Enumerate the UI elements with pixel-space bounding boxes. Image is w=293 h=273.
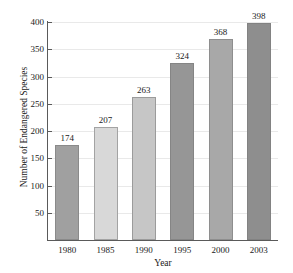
bar[interactable] — [247, 23, 271, 240]
bar-value-label: 324 — [162, 51, 202, 61]
x-axis-title: Year — [48, 258, 278, 268]
y-tick-label: 300 — [2, 72, 44, 82]
plot-area: 174207263324368398 — [48, 22, 278, 240]
y-tick-label: 100 — [2, 181, 44, 191]
y-tick-label: 250 — [2, 99, 44, 109]
bar[interactable] — [55, 145, 79, 240]
gridline — [48, 77, 278, 78]
x-tick-label: 1985 — [86, 245, 126, 255]
x-tick-label: 1990 — [124, 245, 164, 255]
x-axis-line — [47, 240, 278, 241]
bar[interactable] — [132, 97, 156, 240]
bar-value-label: 174 — [47, 133, 87, 143]
gridline — [48, 158, 278, 159]
y-tick-mark — [48, 22, 52, 23]
gridline — [48, 186, 278, 187]
bar[interactable] — [94, 127, 118, 240]
y-tick-mark — [48, 49, 52, 50]
y-tick-label: 400 — [2, 17, 44, 27]
bar[interactable] — [209, 39, 233, 240]
y-tick-label: 200 — [2, 126, 44, 136]
x-tick-label: 2000 — [201, 245, 241, 255]
y-tick-label: 50 — [2, 208, 44, 218]
bar-value-label: 207 — [86, 115, 126, 125]
bar-value-label: 368 — [201, 27, 241, 37]
bar[interactable] — [170, 63, 194, 240]
gridline — [48, 22, 278, 23]
y-tick-mark — [48, 77, 52, 78]
x-tick-label: 1980 — [47, 245, 87, 255]
y-tick-mark — [48, 213, 52, 214]
gridline — [48, 213, 278, 214]
x-tick-label: 1995 — [162, 245, 202, 255]
y-tick-mark — [48, 186, 52, 187]
y-tick-mark — [48, 104, 52, 105]
y-tick-mark — [48, 131, 52, 132]
bar-value-label: 398 — [239, 11, 279, 21]
gridline — [48, 49, 278, 50]
bar-chart: Number of Endangered Species 50100150200… — [0, 0, 293, 273]
gridline — [48, 104, 278, 105]
x-tick-label: 2003 — [239, 245, 279, 255]
bar-value-label: 263 — [124, 85, 164, 95]
y-tick-label: 350 — [2, 44, 44, 54]
y-tick-mark — [48, 158, 52, 159]
gridline — [48, 131, 278, 132]
y-axis-tick-labels: 50100150200250300350400 — [0, 0, 46, 273]
y-tick-label: 150 — [2, 153, 44, 163]
